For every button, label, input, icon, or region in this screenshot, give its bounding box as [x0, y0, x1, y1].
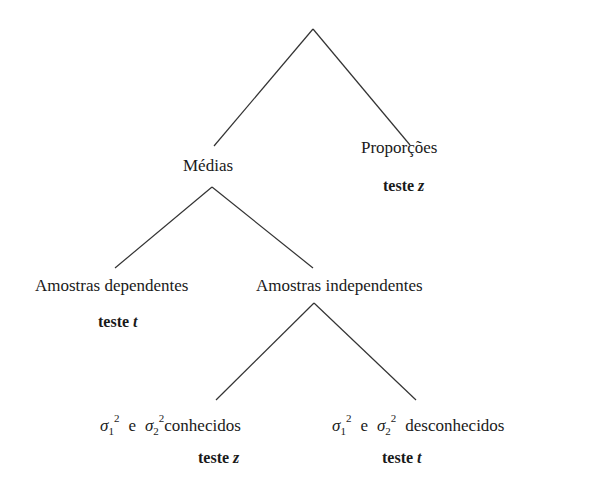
sigma1-squared: σ12 — [332, 416, 351, 435]
node-independent-label: Amostras independentes — [256, 276, 423, 295]
edge-independent-known — [216, 303, 314, 400]
node-unknown-label: desconhecidos — [405, 416, 504, 435]
conjunction: e — [128, 416, 136, 435]
node-known-label: conhecidos — [164, 416, 240, 435]
sigma2-squared: σ22 — [377, 416, 396, 435]
node-variances-unknown: σ12eσ22desconhecidos — [332, 410, 504, 441]
known-test-label: teste z — [198, 448, 239, 468]
node-means-label: Médias — [183, 156, 233, 175]
node-dependent-label: Amostras dependentes — [35, 276, 188, 295]
edge-means-independent — [212, 187, 313, 268]
sigma1-squared: σ12 — [100, 416, 119, 435]
sigma2-squared: σ22 — [145, 416, 164, 435]
test-variable: z — [233, 449, 239, 466]
node-variances-known: σ12eσ22conhecidos — [100, 410, 241, 441]
edge-means-dependent — [115, 187, 212, 268]
conjunction: e — [360, 416, 368, 435]
node-independent-samples: Amostras independentes — [256, 276, 423, 296]
node-dependent-samples: Amostras dependentes — [35, 276, 188, 296]
dependent-test-label: teste t — [98, 312, 138, 332]
test-variable: t — [417, 449, 421, 466]
edge-root-means — [214, 29, 313, 146]
edge-root-proportions — [313, 29, 410, 145]
node-proportions: Proporções — [361, 138, 437, 158]
node-means: Médias — [183, 156, 233, 176]
proportions-test-label: teste z — [383, 176, 424, 196]
test-variable: t — [133, 313, 137, 330]
unknown-test-label: teste t — [382, 448, 422, 468]
test-variable: z — [418, 177, 424, 194]
decision-tree-diagram: Médias Proporções teste z Amostras depen… — [0, 0, 592, 498]
edge-independent-unknown — [314, 303, 416, 400]
node-proportions-label: Proporções — [361, 138, 437, 157]
